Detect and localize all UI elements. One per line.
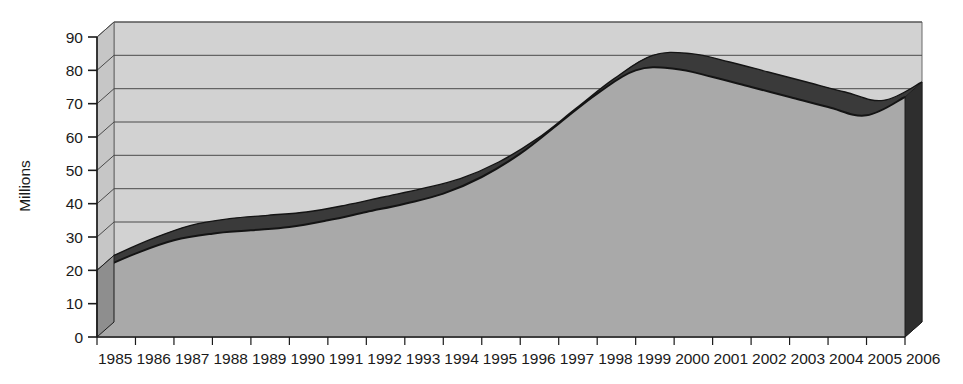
x-axis-tick-label: 2001 [714, 350, 748, 367]
x-axis-tick-label: 2005 [868, 350, 902, 367]
area-chart: 0102030405060708090 19851986198719881989… [0, 0, 963, 384]
x-axis-tick-labels: 1985198619871988198919901991199219931994… [98, 350, 940, 367]
x-axis-tick-label: 2006 [906, 350, 940, 367]
area-right-side-face [905, 82, 922, 337]
x-axis-tick-label: 1990 [290, 350, 325, 367]
x-axis-tick-label: 1996 [521, 350, 555, 367]
x-axis-tick-label: 1998 [598, 350, 632, 367]
y-axis-tick-label: 0 [74, 329, 83, 346]
x-axis-tick-label: 1997 [560, 350, 594, 367]
y-axis-tick-label: 10 [66, 295, 84, 312]
x-axis-tick-label: 1999 [637, 350, 671, 367]
y-axis-tick-label: 30 [66, 229, 84, 246]
y-axis-tick-label: 50 [66, 162, 84, 179]
x-axis-tick-label: 2004 [829, 350, 864, 367]
x-axis-tick-label: 1985 [98, 350, 132, 367]
y-axis-tick-label: 80 [66, 62, 84, 79]
y-axis-ticks [88, 37, 97, 337]
x-axis-tick-label: 1987 [175, 350, 209, 367]
x-axis-ticks [97, 337, 905, 345]
y-axis-tick-label: 60 [66, 129, 84, 146]
x-axis-tick-label: 1994 [444, 350, 479, 367]
area-left-side-face [97, 255, 114, 337]
y-axis-tick-label: 40 [66, 195, 84, 212]
x-axis-tick-label: 2002 [752, 350, 786, 367]
x-axis-tick-label: 1995 [483, 350, 517, 367]
x-axis-tick-label: 2000 [675, 350, 710, 367]
x-axis-tick-label: 1992 [367, 350, 401, 367]
x-axis-tick-label: 1989 [252, 350, 286, 367]
x-axis-tick-label: 1986 [136, 350, 170, 367]
y-axis-title: Millions [16, 160, 33, 212]
chart-canvas: 0102030405060708090 19851986198719881989… [0, 0, 963, 384]
x-axis-tick-label: 1991 [329, 350, 363, 367]
y-axis-tick-labels: 0102030405060708090 [66, 29, 84, 346]
y-axis-tick-label: 90 [66, 29, 84, 46]
x-axis-tick-label: 2003 [791, 350, 825, 367]
x-axis-tick-label: 1988 [213, 350, 247, 367]
x-axis-tick-label: 1993 [406, 350, 440, 367]
y-axis-tick-label: 20 [66, 262, 84, 279]
y-axis-tick-label: 70 [66, 95, 84, 112]
